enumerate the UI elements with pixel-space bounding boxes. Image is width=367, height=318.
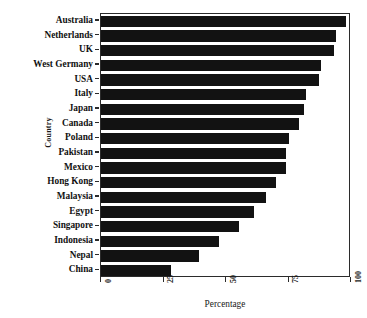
x-axis-tick-label: 25 [166, 275, 175, 283]
bar-row [101, 29, 349, 44]
bar [101, 250, 199, 261]
category-label-row: Singapore [0, 218, 100, 233]
category-label-row: USA [0, 72, 100, 87]
category-label: Hong Kong [47, 174, 100, 189]
bar-row [101, 249, 349, 264]
x-axis-tick-label: 100 [354, 271, 363, 283]
bar [101, 74, 319, 85]
category-label-row: Japan [0, 101, 100, 116]
x-axis-tick-label: 75 [291, 275, 300, 283]
bar [101, 177, 276, 188]
bar-row [101, 234, 349, 249]
y-axis-tick [95, 210, 99, 211]
bar [101, 192, 266, 203]
y-axis-tick [95, 239, 99, 240]
category-label-row: Hong Kong [0, 174, 100, 189]
bar-row [101, 73, 349, 88]
bar-row [101, 175, 349, 190]
bar-row [101, 146, 349, 161]
x-axis-tick [350, 277, 351, 282]
category-label-row: Malaysia [0, 189, 100, 204]
category-label: Netherlands [44, 28, 100, 43]
bar [101, 236, 219, 247]
bar-row [101, 131, 349, 146]
y-axis-category-labels: AustraliaNetherlandsUKWest GermanyUSAIta… [0, 13, 100, 277]
category-label-row: Nepal [0, 248, 100, 263]
bar [101, 89, 306, 100]
bar-row [101, 190, 349, 205]
bar-row [101, 161, 349, 176]
category-label-row: Canada [0, 116, 100, 131]
bar-row [101, 102, 349, 117]
bar [101, 16, 346, 27]
category-label-row: Italy [0, 86, 100, 101]
y-axis-tick [95, 34, 99, 35]
category-label-row: Mexico [0, 160, 100, 175]
bar-row [101, 14, 349, 29]
y-axis-tick [95, 166, 99, 167]
y-axis-tick [95, 151, 99, 152]
category-label-row: Indonesia [0, 233, 100, 248]
category-label: Singapore [53, 218, 100, 233]
bar [101, 265, 171, 276]
y-axis-tick [95, 269, 99, 270]
category-label-row: Netherlands [0, 28, 100, 43]
category-label-row: Pakistan [0, 145, 100, 160]
category-label-row: Australia [0, 13, 100, 28]
category-label: Indonesia [54, 233, 100, 248]
bar-row [101, 205, 349, 220]
y-axis-tick [95, 137, 99, 138]
y-axis-tick [95, 107, 99, 108]
bar-row [101, 43, 349, 58]
y-axis-tick [95, 195, 99, 196]
x-axis-tick [288, 277, 289, 282]
bar-row [101, 117, 349, 132]
bar [101, 162, 286, 173]
bar-row [101, 219, 349, 234]
category-label-row: Poland [0, 130, 100, 145]
chart-figure: Country AustraliaNetherlandsUKWest Germa… [0, 0, 367, 318]
bar [101, 148, 286, 159]
bar-row [101, 263, 349, 278]
plot-area [100, 13, 350, 277]
category-label-row: Egypt [0, 204, 100, 219]
bar [101, 221, 239, 232]
category-label-row: West Germany [0, 57, 100, 72]
x-axis-title: Percentage [100, 299, 350, 309]
x-axis-tick-label: 0 [104, 279, 113, 283]
y-axis-tick [95, 93, 99, 94]
bar [101, 60, 321, 71]
bar [101, 104, 304, 115]
bar [101, 206, 254, 217]
y-axis-tick [95, 225, 99, 226]
y-axis-tick [95, 19, 99, 20]
y-axis-tick [95, 78, 99, 79]
category-label: West Germany [33, 57, 100, 72]
category-label: Malaysia [57, 189, 100, 204]
category-label-row: China [0, 262, 100, 277]
category-label: Australia [56, 13, 100, 28]
y-axis-tick [95, 122, 99, 123]
y-axis-tick [95, 254, 99, 255]
x-axis-tick [163, 277, 164, 282]
bar [101, 133, 289, 144]
bar [101, 118, 299, 129]
y-axis-tick [95, 63, 99, 64]
category-label-row: UK [0, 42, 100, 57]
y-axis-tick [95, 181, 99, 182]
category-label: Pakistan [58, 145, 100, 160]
bar-row [101, 58, 349, 73]
x-axis-tick-label: 50 [229, 275, 238, 283]
x-axis-tick [100, 277, 101, 282]
y-axis-tick [95, 49, 99, 50]
x-axis-tick [225, 277, 226, 282]
bar [101, 30, 336, 41]
bar-row [101, 87, 349, 102]
bar [101, 45, 334, 56]
